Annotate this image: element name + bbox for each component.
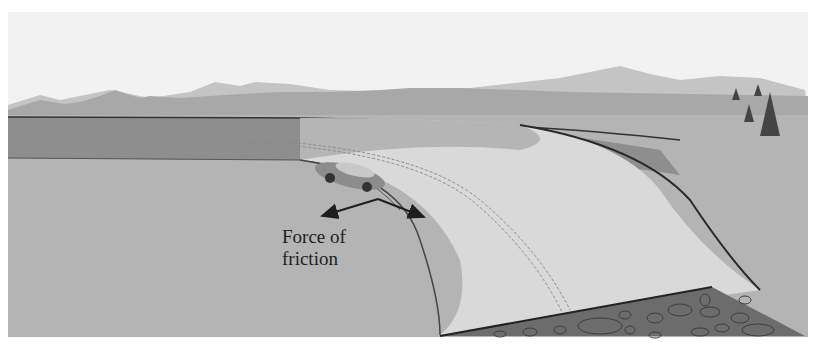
label-line-2: friction <box>282 248 346 270</box>
friction-diagram: Force of friction <box>0 0 822 347</box>
label-line-1: Force of <box>282 226 346 248</box>
force-of-friction-label: Force of friction <box>282 226 346 270</box>
